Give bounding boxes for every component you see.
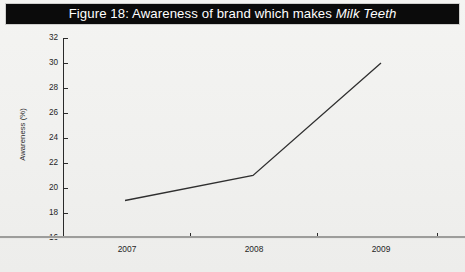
figure-title-brand: Milk Teeth [336,6,397,21]
page-title: Figure 18: Awareness of brand which make… [69,7,397,20]
figure-title-prefix: Figure 18: Awareness of brand which make… [69,6,336,21]
page-bottom-rule [0,236,465,238]
series-line-awareness [0,26,465,262]
chart-plot-area: Awareness (%) 32 30 28 26 24 22 20 [0,26,465,262]
figure-title-band: Figure 18: Awareness of brand which make… [5,3,460,25]
figure-page: Figure 18: Awareness of brand which make… [0,0,465,272]
